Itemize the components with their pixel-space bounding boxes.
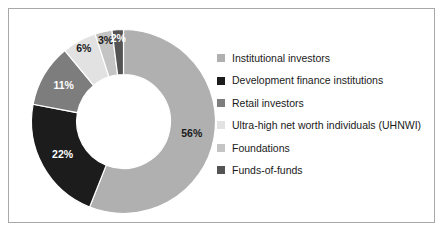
legend-item[interactable]: Ultra-high net worth individuals (UHNWI) <box>217 114 433 136</box>
legend-item[interactable]: Foundations <box>217 137 433 159</box>
legend-item[interactable]: Retail investors <box>217 92 433 114</box>
donut-slice-group <box>32 30 216 214</box>
legend-item-label: Retail investors <box>232 98 304 109</box>
legend-swatch-icon <box>217 144 225 152</box>
legend-swatch-icon <box>217 54 225 62</box>
chart-legend: Institutional investorsDevelopment finan… <box>217 47 433 181</box>
donut-chart: 56%22%11%6%3%2% <box>9 9 221 222</box>
legend-item-label: Ultra-high net worth individuals (UHNWI) <box>232 120 421 131</box>
donut-slice-label: 11% <box>53 79 74 91</box>
legend-item-label: Institutional investors <box>232 53 330 64</box>
chart-figure: 56%22%11%6%3%2% Institutional investorsD… <box>8 8 435 223</box>
legend-item[interactable]: Funds-of-funds <box>217 159 433 181</box>
legend-item[interactable]: Institutional investors <box>217 47 433 69</box>
donut-slice-label: 2% <box>111 32 127 44</box>
donut-slice-label: 6% <box>76 42 92 54</box>
legend-swatch-icon <box>217 166 225 174</box>
legend-swatch-icon <box>217 121 225 129</box>
legend-item-label: Funds-of-funds <box>232 165 303 176</box>
donut-chart-svg: 56%22%11%6%3%2% <box>9 9 221 222</box>
legend-item[interactable]: Development finance institutions <box>217 69 433 91</box>
legend-swatch-icon <box>217 99 225 107</box>
donut-slice-label: 56% <box>181 127 203 139</box>
legend-item-label: Foundations <box>232 143 290 154</box>
donut-slice-label: 22% <box>52 148 74 160</box>
legend-swatch-icon <box>217 77 225 85</box>
legend-item-label: Development finance institutions <box>232 75 383 86</box>
